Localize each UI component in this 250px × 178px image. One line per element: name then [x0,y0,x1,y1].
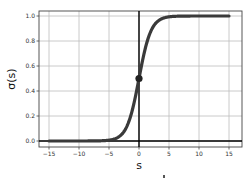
svg-text:0: 0 [137,150,141,157]
svg-text:0.2: 0.2 [25,112,35,119]
y-axis-label: σ(s) [5,68,18,89]
stray-mark [163,175,165,178]
svg-text:0.8: 0.8 [25,37,35,44]
x-axis-label: s [136,159,142,172]
svg-text:10: 10 [195,150,203,157]
svg-text:−5: −5 [105,150,114,157]
midpoint-marker [135,75,142,82]
svg-text:0.0: 0.0 [25,137,35,144]
svg-text:5: 5 [167,150,171,157]
svg-text:1.0: 1.0 [25,12,35,19]
svg-text:0.6: 0.6 [25,62,35,69]
svg-text:−10: −10 [73,150,86,157]
svg-text:0.4: 0.4 [25,87,35,94]
svg-text:−15: −15 [43,150,56,157]
svg-text:15: 15 [225,150,233,157]
sigmoid-chart: −15−10−50510150.00.20.40.60.81.0 s σ(s) [0,0,250,178]
tick-labels: −15−10−50510150.00.20.40.60.81.0 [25,12,233,157]
